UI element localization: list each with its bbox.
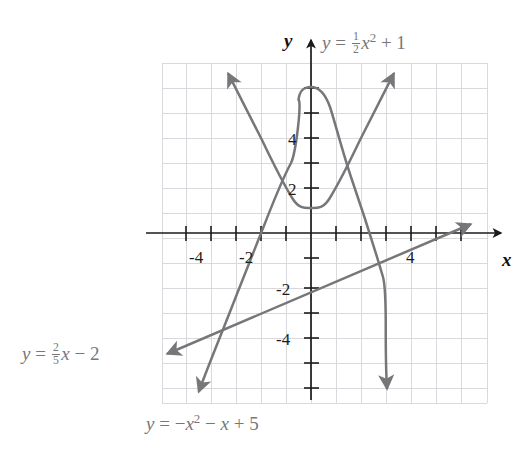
- x-tick-label-minus2: -2: [239, 249, 253, 266]
- y-tick-label-minus2: -2: [276, 281, 290, 298]
- y-tick-label-minus4: -4: [276, 331, 290, 348]
- equation-label-line: y = 25x − 2: [22, 342, 99, 367]
- coordinate-plane-svg: [0, 0, 530, 449]
- graph-figure: -4 -2 4 4 2 -2 -4 y x y = 12x2 + 1 y = −…: [0, 0, 530, 449]
- y-tick-label-2: 2: [288, 181, 297, 198]
- equation-label-downward-parabola: y = −x2 − x + 5: [146, 414, 259, 433]
- x-axis-label: x: [502, 250, 512, 269]
- y-tick-label-4: 4: [288, 131, 297, 148]
- curve-line: [168, 225, 470, 354]
- y-axis-label: y: [284, 31, 292, 50]
- equation-label-upward-parabola: y = 12x2 + 1: [322, 31, 406, 56]
- x-tick-label-minus4: -4: [189, 249, 203, 266]
- x-tick-label-4: 4: [406, 249, 415, 266]
